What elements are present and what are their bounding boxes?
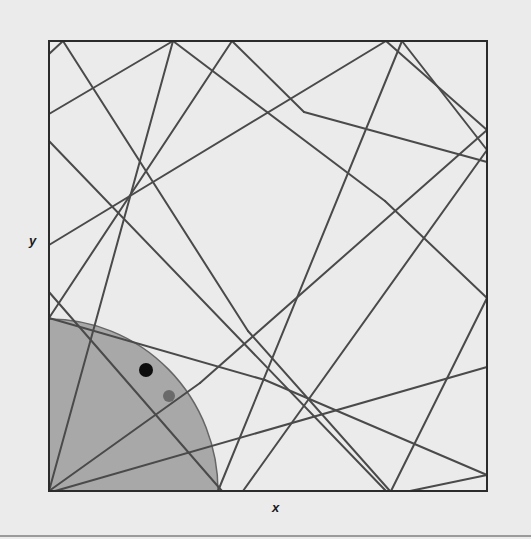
trajectory-segment: [265, 380, 487, 475]
trajectory-segment: [304, 112, 487, 162]
trajectory-segment: [49, 41, 173, 114]
trajectory-segment: [63, 41, 248, 331]
trajectory-segment: [49, 41, 386, 245]
trajectory-segment: [391, 298, 487, 491]
y-axis-label: y: [29, 233, 36, 248]
trajectory-segment: [232, 41, 304, 112]
bottom-divider: [0, 535, 531, 537]
trajectory-segment: [410, 475, 487, 491]
trajectory-segment: [218, 41, 402, 491]
quarter-circle: [49, 319, 218, 491]
trajectory-segment: [248, 331, 390, 491]
quarter-circle-region: [49, 319, 218, 491]
trajectory-segment: [173, 41, 385, 201]
trajectory-segment: [243, 150, 487, 491]
primary-point: [139, 363, 153, 377]
secondary-point: [163, 390, 175, 402]
trajectory-segment: [49, 41, 232, 318]
trajectory-segment: [385, 201, 487, 298]
trajectory-segment: [49, 41, 63, 54]
x-axis-label: x: [272, 500, 279, 515]
diagram-canvas: [0, 0, 531, 539]
trajectory-segment: [402, 41, 487, 150]
